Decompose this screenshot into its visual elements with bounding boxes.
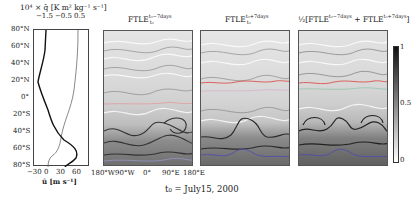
bottom-axis-label: ū [m s⁻¹] [42,177,77,186]
colorbar-tick: 1 [400,43,404,51]
ftle-backward-field [104,31,193,166]
lon-tick: 0° [143,169,151,177]
ftle-average-field [299,31,388,166]
lat-tick: 40°N [11,59,30,67]
lon-tick: 180°E [183,169,205,177]
lat-tick: 60°N [11,42,30,50]
ftle-forward-field [201,31,290,166]
top-tick: 0.5 [74,12,85,20]
ftle-backward-panel [103,30,193,166]
ftle-average-panel [298,30,388,166]
lat-tick: 20°N [11,76,30,84]
bottom-tick: −30 [27,168,42,176]
panel-3-title: ½[FTLEt₀−7days + FTLEt₀+7days] [298,13,409,24]
top-tick: −0.5 [55,12,72,20]
lat-tick: 80°N [11,25,30,33]
profile-lines [34,30,90,167]
profile-plot-frame [33,29,89,166]
figure-caption: t₀ = July15, 2000 [165,184,239,194]
colorbar-tick: 0 [400,156,404,164]
top-tick: −1.5 [36,12,53,20]
bottom-tick: 60 [72,168,81,176]
lat-tick: 40°S [13,127,30,135]
lat-tick: 0° [21,93,29,101]
top-axis-label: 10⁴ × q̄ [K m² kg⁻¹ s⁻¹] [20,3,107,12]
bottom-tick: 0 [44,168,48,176]
lat-tick: 60°S [13,144,30,152]
panel-1-title: FTLEt₀−7dayst₀ [128,13,154,25]
colorbar-tick: 0.5 [400,99,411,107]
lon-tick: 90°E [162,169,180,177]
ftle-forward-panel [200,30,290,166]
lon-tick: 180°W [91,169,115,177]
lon-tick: 90°W [115,169,135,177]
panel-2-title: FTLEt₀+7dayst₀ [225,13,251,25]
colorbar [393,46,399,163]
lat-tick: 20°S [13,110,30,118]
bottom-tick: 30 [56,168,65,176]
